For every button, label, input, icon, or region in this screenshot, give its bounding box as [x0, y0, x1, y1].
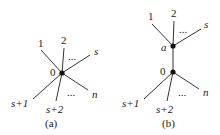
- label-s: s: [204, 18, 208, 30]
- label-0: 0: [160, 65, 166, 77]
- caption-b: (b): [162, 117, 175, 130]
- label-s-plus-1: s+1: [122, 97, 139, 109]
- label-s-plus-1: s+1: [11, 97, 28, 109]
- caption-a: (a): [45, 117, 58, 130]
- edge-0-2: [62, 48, 64, 73]
- label-2: 2: [61, 34, 67, 46]
- label-a: a: [161, 41, 167, 53]
- label-n: n: [92, 88, 98, 100]
- label-s-plus-2: s+2: [156, 103, 174, 115]
- label-n: n: [203, 86, 209, 98]
- ellipsis-lower: ...: [178, 86, 187, 98]
- ellipsis-upper: ...: [179, 23, 188, 35]
- panel-b: 1 2 s ... a 0 s+1 s+2 n ... (b): [122, 7, 209, 130]
- ellipsis-upper: ...: [68, 50, 77, 62]
- node-0: [170, 69, 175, 74]
- node-a: [170, 43, 175, 48]
- ellipsis-lower: ...: [67, 86, 76, 98]
- label-2: 2: [171, 7, 177, 19]
- label-s: s: [94, 45, 98, 57]
- label-0: 0: [50, 66, 56, 78]
- label-1: 1: [38, 37, 44, 49]
- label-1: 1: [148, 10, 154, 22]
- node-0: [59, 70, 64, 75]
- star-graph-diagram: 1 2 s ... 0 s+1 s+2 n ... (a) 1 2 s ... …: [0, 0, 220, 135]
- label-s-plus-2: s+2: [46, 103, 64, 115]
- edge-a-2: [173, 21, 174, 46]
- panel-a: 1 2 s ... 0 s+1 s+2 n ... (a): [11, 34, 98, 130]
